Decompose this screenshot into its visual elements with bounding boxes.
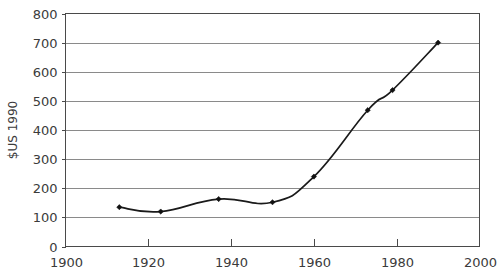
y-tick-label-800: 800 [33,7,58,22]
y-axis-ticks-group: 0100200300400500600700800 [33,7,66,255]
x-tick-label-1900: 1900 [50,255,83,270]
line-chart: 0100200300400500600700800 19001920194019… [0,0,497,279]
y-tick-label-100: 100 [33,210,58,225]
x-axis-ticks-group: 190019201940196019802000 [50,239,497,270]
y-tick-label-0: 0 [49,240,57,255]
y-tick-label-500: 500 [33,94,58,109]
chart-container: 0100200300400500600700800 19001920194019… [0,0,497,279]
data-point-1937 [216,196,221,201]
series-line-us-1990 [119,43,438,212]
x-tick-label-1980: 1980 [381,255,414,270]
y-axis-title: $US 1990 [6,101,20,159]
data-point-1923 [158,209,163,214]
gridlines-group [66,44,480,218]
y-tick-label-300: 300 [33,152,58,167]
y-tick-label-700: 700 [33,36,58,51]
x-tick-label-1940: 1940 [215,255,248,270]
data-point-1950 [270,200,275,205]
x-tick-label-2000: 2000 [464,255,497,270]
x-tick-label-1920: 1920 [132,255,165,270]
y-tick-label-200: 200 [33,181,58,196]
y-tick-label-600: 600 [33,65,58,80]
y-tick-label-400: 400 [33,123,58,138]
data-point-1913 [117,205,122,210]
x-tick-label-1960: 1960 [298,255,331,270]
